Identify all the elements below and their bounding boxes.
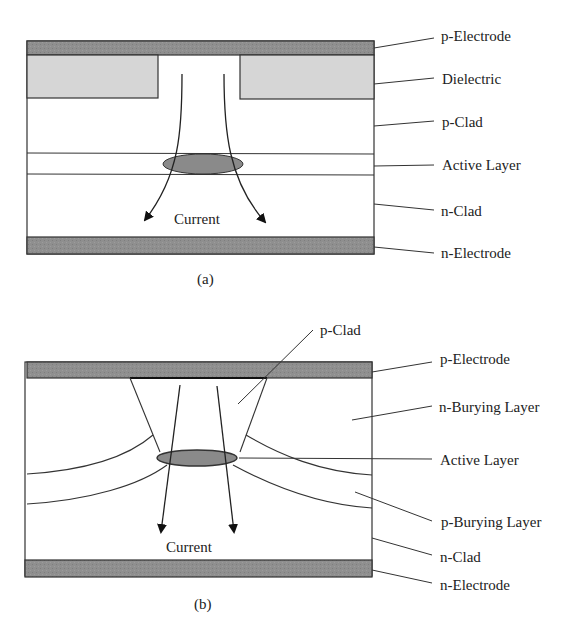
label-a-n-clad: n-Clad — [441, 203, 482, 219]
label-b-p-burying-layer: p-Burying Layer — [441, 514, 541, 530]
diagram-a: Current p-Electrode Dielectric p-Clad Ac… — [27, 28, 521, 288]
leader-b-n-clad — [372, 538, 432, 555]
leader-a-n-electrode — [374, 247, 434, 253]
laser-structure-figure: Current p-Electrode Dielectric p-Clad Ac… — [0, 0, 588, 634]
leader-b-p-electrode — [372, 362, 432, 372]
leader-a-dielectric — [374, 78, 434, 84]
label-b-p-electrode: p-Electrode — [440, 351, 510, 367]
leader-a-n-clad — [374, 204, 434, 210]
leader-b-n-electrode — [372, 570, 432, 583]
diagram-a-p-electrode — [27, 41, 374, 55]
diagram-a-caption: (a) — [197, 271, 214, 288]
label-a-p-electrode: p-Electrode — [441, 28, 511, 44]
label-a-n-electrode: n-Electrode — [441, 245, 511, 261]
leader-a-active-layer — [374, 165, 434, 166]
label-b-p-clad: p-Clad — [320, 322, 361, 338]
label-b-active-layer: Active Layer — [440, 452, 519, 468]
diagram-b-n-electrode — [25, 560, 372, 577]
diagram-b-caption: (b) — [194, 596, 212, 613]
diagram-a-dielectric-right — [240, 55, 374, 99]
diagram-a-n-electrode — [27, 237, 374, 254]
label-a-active-layer: Active Layer — [442, 157, 521, 173]
leader-a-p-electrode — [374, 38, 434, 48]
label-b-n-clad: n-Clad — [440, 549, 481, 565]
label-b-n-burying-layer: n-Burying Layer — [439, 399, 539, 415]
diagram-b-p-electrode — [27, 362, 372, 378]
label-a-p-clad: p-Clad — [442, 114, 483, 130]
diagram-b: Current p-Clad p-Electrode n-Burying Lay… — [25, 322, 541, 613]
label-b-n-electrode: n-Electrode — [440, 577, 510, 593]
diagram-a-dielectric-left — [27, 55, 158, 98]
diagram-a-current-label: Current — [174, 211, 221, 227]
leader-a-p-clad — [374, 121, 434, 126]
diagram-b-current-label: Current — [166, 539, 213, 555]
label-a-dielectric: Dielectric — [442, 71, 501, 87]
